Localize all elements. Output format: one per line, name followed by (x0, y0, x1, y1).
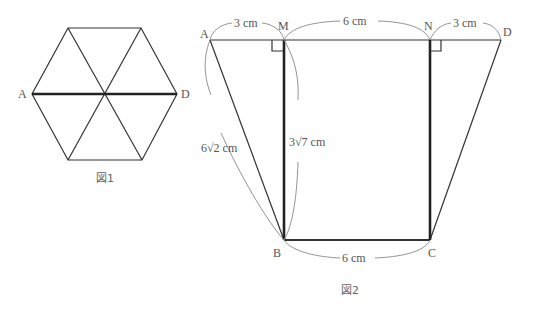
figure-2-trapezoid (210, 40, 501, 240)
fig2-label-M: M (278, 19, 289, 33)
measure-AB: 6√2 cm (201, 141, 238, 155)
fig2-label-D: D (503, 25, 512, 39)
figure-2-caption: 図2 (341, 284, 359, 297)
figure-1-hexagon (32, 28, 177, 160)
figure-1-caption: 図1 (96, 172, 114, 185)
measurement-arcs (205, 21, 501, 258)
measure-ND: 3 cm (453, 16, 477, 30)
measure-BC: 6 cm (342, 251, 366, 265)
right-angle-N (430, 40, 441, 51)
measure-MN: 6 cm (343, 14, 367, 28)
fig1-label-A: A (18, 87, 27, 101)
fig2-label-N: N (424, 19, 433, 33)
right-angle-M (272, 40, 284, 51)
fig1-label-D: D (181, 87, 190, 101)
figures-canvas: A D 図1 A M N D B C 3 cm 6 cm 3 cm 6 cm 6… (0, 0, 533, 313)
measure-MB: 3√7 cm (289, 135, 326, 149)
fig2-label-C: C (428, 246, 436, 260)
fig2-label-A: A (200, 27, 209, 41)
measure-AM: 3 cm (234, 16, 258, 30)
fig2-label-B: B (273, 246, 281, 260)
